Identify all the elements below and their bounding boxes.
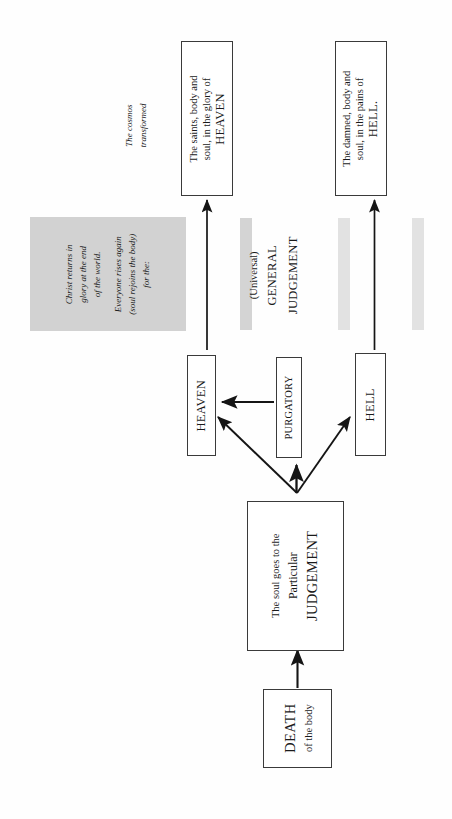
node-particular-judgement[interactable]: The soul goes to the Particular JUDGEMEN… bbox=[247, 501, 344, 651]
particular-judgement-line-3: JUDGEMENT bbox=[302, 531, 324, 622]
heaven-label: HEAVEN bbox=[194, 380, 210, 432]
heaven-final-line-2: soul, in the glory of bbox=[199, 75, 212, 162]
node-purgatory[interactable]: PURGATORY bbox=[276, 357, 302, 458]
particular-judgement-line-2: Particular bbox=[284, 531, 302, 622]
heaven-final-text: The saints, body and soul, in the glory … bbox=[186, 75, 228, 162]
cosmos-text: The cosmos transformed bbox=[122, 103, 149, 147]
heaven-final-line-3: HEAVEN bbox=[212, 75, 228, 162]
node-heaven-final[interactable]: The saints, body and soul, in the glory … bbox=[181, 41, 233, 196]
death-line-1: DEATH bbox=[279, 704, 300, 754]
christ-returns-line-2: glory at the end bbox=[77, 234, 91, 315]
everyone-rises-line-2: (soul rejoins the body) bbox=[125, 234, 139, 315]
arrow-judgement-to-hell bbox=[297, 417, 350, 493]
general-judgement-line-2: GENERAL bbox=[262, 236, 283, 314]
annotation-general-judgement: (Universal) GENERAL JUDGEMENT bbox=[243, 222, 305, 328]
cosmos-line-2: transformed bbox=[136, 103, 150, 147]
node-heaven[interactable]: HEAVEN bbox=[187, 355, 216, 456]
node-hell[interactable]: HELL bbox=[355, 353, 386, 456]
shade-block-resurrection: Christ returns in glory at the end of th… bbox=[30, 217, 186, 331]
heaven-final-line-1: The saints, body and bbox=[186, 75, 199, 162]
hell-final-line-2: soul, in the pains of bbox=[353, 70, 366, 166]
general-judgement-text: (Universal) GENERAL JUDGEMENT bbox=[245, 236, 304, 314]
death-text: DEATH of the body bbox=[279, 704, 315, 754]
resurrection-annotation-text: Christ returns in glory at the end of th… bbox=[63, 234, 154, 315]
annotation-gap bbox=[105, 234, 112, 315]
shade-bar-hell-left bbox=[338, 218, 350, 330]
christ-returns-line-3: of the world. bbox=[91, 234, 105, 315]
particular-judgement-line-1: The soul goes to the bbox=[268, 531, 284, 622]
everyone-rises-line-1: Everyone rises again bbox=[112, 234, 126, 315]
node-hell-final[interactable]: The damned, body and soul, in the pains … bbox=[335, 41, 387, 196]
node-death[interactable]: DEATH of the body bbox=[263, 689, 332, 768]
death-line-2: of the body bbox=[300, 704, 315, 754]
shade-bar-hell-right bbox=[412, 218, 424, 330]
purgatory-label: PURGATORY bbox=[282, 375, 295, 439]
general-judgement-line-1: (Universal) bbox=[245, 236, 262, 314]
hell-final-text: The damned, body and soul, in the pains … bbox=[340, 70, 382, 166]
annotation-cosmos-transformed: The cosmos transformed bbox=[112, 70, 160, 180]
general-judgement-line-3: JUDGEMENT bbox=[283, 236, 304, 314]
everyone-rises-line-3: for the: bbox=[139, 234, 153, 315]
hell-final-line-1: The damned, body and bbox=[340, 70, 353, 166]
cosmos-line-1: The cosmos bbox=[122, 103, 136, 147]
diagram-canvas: Christ returns in glory at the end of th… bbox=[0, 0, 452, 819]
hell-label: HELL bbox=[363, 388, 379, 421]
hell-final-line-3: HELL. bbox=[366, 70, 382, 166]
christ-returns-line-1: Christ returns in bbox=[63, 234, 77, 315]
particular-judgement-text: The soul goes to the Particular JUDGEMEN… bbox=[268, 531, 324, 622]
